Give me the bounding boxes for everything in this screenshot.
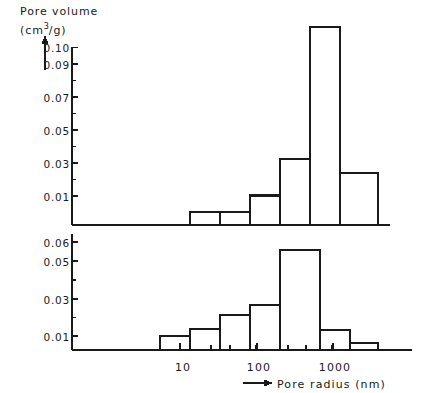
bottom-bar-4 (250, 305, 280, 350)
bottom-bar-2 (190, 329, 220, 350)
x-axis-ticks (180, 343, 333, 350)
bottom-bar-5 (280, 250, 320, 350)
top-bar-6 (340, 173, 378, 225)
top-bar-5 (310, 27, 340, 225)
top-bar-4 (280, 159, 310, 225)
top-bar-step-outline (160, 27, 378, 225)
top-panel-bar-rects (190, 27, 378, 225)
top-bar-3 (250, 196, 280, 225)
x-axis-arrow-icon (243, 380, 273, 387)
top-panel-axes (72, 47, 390, 225)
bottom-bar-3 (220, 315, 250, 350)
y-axis-arrow-icon (42, 35, 49, 70)
bottom-panel-bar-rects (160, 250, 378, 350)
top-panel-bars (160, 27, 378, 225)
pore-volume-histogram-figure: Pore volume (cm3/g) 0.10 0.09 0.07 0.05 … (0, 0, 427, 393)
bottom-panel-axes (72, 234, 412, 350)
top-bar-1 (190, 213, 220, 226)
bottom-bar-6 (320, 330, 350, 350)
bottom-bar-1 (160, 336, 190, 350)
top-bar-2 (220, 213, 250, 226)
chart-canvas (0, 0, 427, 393)
bottom-bar-7 (350, 343, 378, 350)
